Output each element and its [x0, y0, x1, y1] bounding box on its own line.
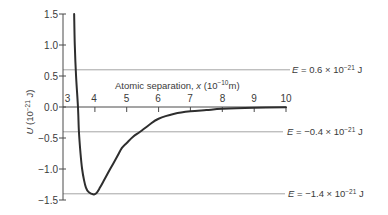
y-axis-label: U (10−21 J): [24, 90, 36, 135]
energy-exponent: −21: [345, 188, 356, 195]
energy-annotations: E = 0.6 × 10−21 J E = −0.4 × 10−21 J E =…: [287, 64, 364, 200]
energy-exponent: −21: [344, 126, 355, 133]
y-tick-label: −0.5: [38, 133, 58, 144]
x-tick-label: 7: [187, 93, 193, 104]
y-tick-label: 1.5: [44, 9, 58, 20]
energy-unit: J: [355, 126, 363, 137]
x-tick-label: 9: [251, 93, 257, 104]
x-tick-label: 4: [91, 93, 97, 104]
x-axis-unit-prefix: (10: [201, 80, 217, 91]
y-axis-unit-exponent: −21: [24, 100, 31, 111]
y-tick-label: 0.0: [44, 102, 58, 113]
y-axis-unit-prefix: (10: [24, 111, 35, 127]
y-axis-unit-suffix: J): [24, 90, 35, 101]
y-tick-label: −1.5: [38, 195, 58, 206]
energy-value: = 0.6 × 10: [298, 64, 343, 75]
energy-label-neg0.4: E = −0.4 × 10−21 J: [287, 126, 363, 138]
x-tick-label: 6: [155, 93, 161, 104]
energy-value: = −0.4 × 10: [293, 126, 344, 137]
energy-value: = −1.4 × 10: [294, 188, 345, 199]
potential-energy-curve: [74, 14, 286, 194]
x-tick-label: 8: [220, 93, 226, 104]
x-tick-label: 5: [124, 93, 130, 104]
energy-label-neg1.4: E = −1.4 × 10−21 J: [288, 188, 364, 200]
x-tick-label: 10: [280, 93, 292, 104]
x-axis-unit-exponent: −10: [217, 79, 228, 86]
potential-energy-chart: 1.5 1.0 0.5 0.0 −0.5 −1.0 −1.5 U (10−21 …: [0, 0, 388, 215]
y-tick-label: −1.0: [38, 164, 58, 175]
energy-unit: J: [356, 188, 364, 199]
y-tick-label: 0.5: [44, 71, 58, 82]
energy-label-0.6: E = 0.6 × 10−21 J: [292, 64, 362, 76]
x-tick-label: 3: [65, 93, 71, 104]
y-axis: 1.5 1.0 0.5 0.0 −0.5 −1.0 −1.5 U (10−21 …: [24, 9, 67, 206]
x-axis-text: Atomic separation,: [115, 80, 196, 91]
x-axis-unit-suffix: m): [228, 80, 239, 91]
x-axis-label: Atomic separation, x (10−10m): [115, 79, 240, 91]
energy-exponent: −21: [344, 64, 355, 71]
energy-unit: J: [355, 64, 363, 75]
y-tick-label: 1.0: [44, 40, 58, 51]
